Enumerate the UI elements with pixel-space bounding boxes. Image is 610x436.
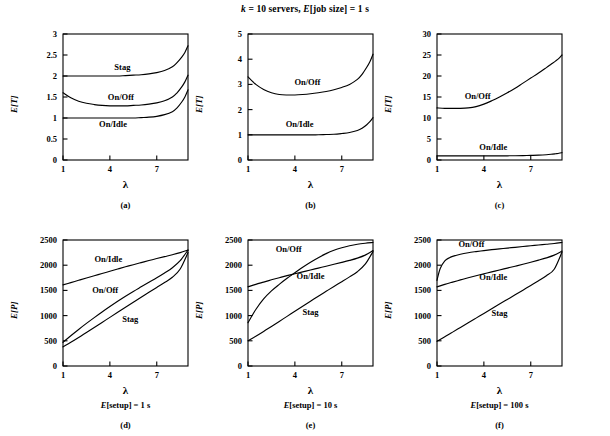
x-tick-label: 7 (529, 370, 533, 380)
x-tick-label: 1 (435, 370, 439, 380)
figure-root: k = 10 servers, E[job size] = 1 s 00.511… (0, 0, 610, 436)
plot-area-f (429, 232, 570, 374)
x-axis-label-f: λ (497, 384, 502, 396)
y-tick-label: 2000 (391, 260, 431, 270)
y-tick-label: 0 (391, 361, 431, 371)
setup-label-f: E[setup] = 100 s (471, 400, 529, 410)
y-tick-label: 1500 (391, 285, 431, 295)
y-tick-label: 2500 (391, 235, 431, 245)
plot-frame-wrapper-f (429, 232, 570, 374)
y-tick-label: 500 (391, 336, 431, 346)
curve-label-on-off: On/Off (458, 239, 484, 249)
curve-stag (437, 252, 562, 341)
y-axis-label-f: E[P] (383, 302, 393, 320)
y-tick-label: 1000 (391, 311, 431, 321)
panel-caption-f: (f) (495, 420, 504, 430)
x-tick-label: 4 (482, 370, 486, 380)
chart-panel-f: 05001000150020002500147E[P]λE[setup] = 1… (0, 0, 610, 436)
setup-label-E: E (471, 400, 477, 410)
curve-label-stag: Stag (491, 308, 507, 318)
curve-label-on-idle: On/Idle (479, 272, 507, 282)
